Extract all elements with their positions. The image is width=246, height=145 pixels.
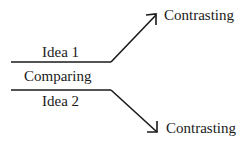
top-contrasting-label: Contrasting [164,8,234,23]
top-diagonal-arrow-line [111,15,156,62]
bottom-diagonal-arrow-line [111,90,157,132]
comparing-label: Comparing [24,69,92,84]
idea-1-label: Idea 1 [42,45,79,60]
bottom-contrasting-label: Contrasting [166,121,236,136]
idea-2-label: Idea 2 [42,94,79,109]
